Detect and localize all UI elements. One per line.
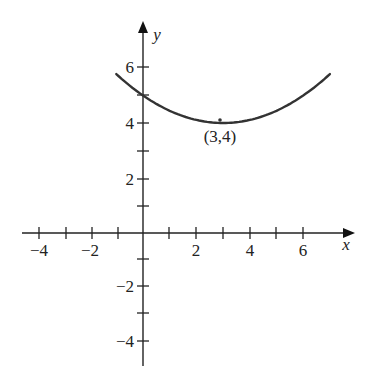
- x-tick-label: 2: [192, 241, 201, 260]
- y-axis-label: y: [151, 25, 161, 44]
- coordinate-plane: −4 −2 2 4 6 x 6 4 2 −2 −4 y (3,4): [0, 0, 378, 386]
- x-tick-label: −2: [81, 241, 99, 260]
- vertex-label: (3,4): [204, 127, 237, 146]
- y-axis-arrow-icon: [138, 21, 148, 33]
- y-tick-label: −2: [116, 277, 134, 296]
- vertex-point: [218, 118, 222, 122]
- x-tick-label: 4: [246, 241, 255, 260]
- parabola-curve: [116, 74, 330, 123]
- y-tick-label: 4: [126, 114, 135, 133]
- x-axis-label: x: [341, 235, 350, 254]
- y-tick-label: −4: [116, 332, 135, 351]
- y-tick-label: 6: [126, 58, 135, 77]
- x-tick-label: 6: [299, 241, 308, 260]
- y-tick-label: 2: [126, 170, 135, 189]
- x-tick-label: −4: [30, 241, 49, 260]
